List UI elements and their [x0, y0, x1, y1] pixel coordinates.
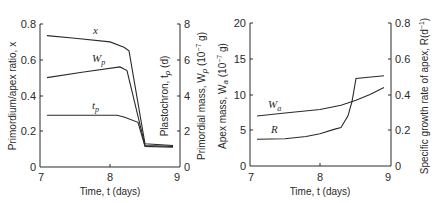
y-tick-label: 0.4	[21, 90, 36, 102]
y-right-tick-label: 0.2	[395, 124, 410, 136]
x-tick-label: 8	[317, 171, 323, 183]
y-right-tick-label: 8	[184, 18, 190, 30]
curve-label-r: R	[270, 123, 278, 135]
figure: 0 0.2 0.4 0.6 0.8 0 2 4 6 8 7 8 9 Time, …	[0, 0, 435, 203]
x-tick-label: 7	[248, 171, 254, 183]
curve-label-wp: Wp	[92, 52, 105, 67]
curve-tp	[47, 115, 173, 147]
right-chart: 0 5 10 15 20 0 0.2 0.4 0.6 0.8 7 8 9 Tim…	[216, 17, 430, 197]
curve-wp	[47, 67, 173, 146]
x-axis-title: Time, t (days)	[290, 186, 351, 197]
y-right-tick-label: 0.4	[395, 89, 410, 101]
x-tick-label: 9	[385, 171, 391, 183]
y-tick-label: 0	[240, 160, 246, 172]
x-axis-title: Time, t (days)	[80, 186, 141, 197]
curve-label-wa: Wa	[268, 98, 281, 113]
y-tick-label: 15	[234, 53, 246, 65]
y-tick-label: 0.2	[21, 125, 36, 137]
left-chart: 0 0.2 0.4 0.6 0.8 0 2 4 6 8 7 8 9 Time, …	[7, 18, 209, 197]
y-tick-label: 5	[240, 124, 246, 136]
x-tick-label: 8	[107, 171, 113, 183]
y-right-tick-label: 6	[184, 54, 190, 66]
y-right-axis-title-primordial-mass: Primordial mass, Wp (10−7 g)	[195, 32, 209, 160]
y-right-tick-label: 0.6	[395, 53, 410, 65]
curve-label-tp: tp	[92, 99, 99, 114]
curve-label-x: x	[92, 24, 98, 36]
x-tick-label: 9	[174, 171, 180, 183]
curve-x	[47, 36, 173, 146]
y-axis-title: Primordium/apex ratio, x	[7, 42, 18, 150]
y-tick-label: 0	[30, 161, 36, 173]
y-right-axis-title-plastochron: Plastochron, tp (d)	[159, 56, 172, 137]
y-right-tick-label: 0.8	[395, 17, 410, 29]
y-right-tick-label: 0	[184, 161, 190, 173]
y-tick-label: 10	[234, 89, 246, 101]
y-right-tick-label: 2	[184, 125, 190, 137]
y-right-tick-label: 0	[395, 160, 401, 172]
y-right-axis-title-growth-rate: Specific growth rate of apex, R(d−1)	[418, 18, 430, 174]
x-tick-label: 7	[38, 171, 44, 183]
y-axis-title-apex-mass: Apex mass, Wa (10−7 g)	[216, 43, 230, 149]
left-chart-right-y-ticks: 0 2 4 6 8	[177, 18, 190, 173]
y-tick-label: 0.6	[21, 54, 36, 66]
y-tick-label: 20	[234, 17, 246, 29]
y-tick-label: 0.8	[21, 18, 36, 30]
y-right-tick-label: 4	[184, 90, 190, 102]
